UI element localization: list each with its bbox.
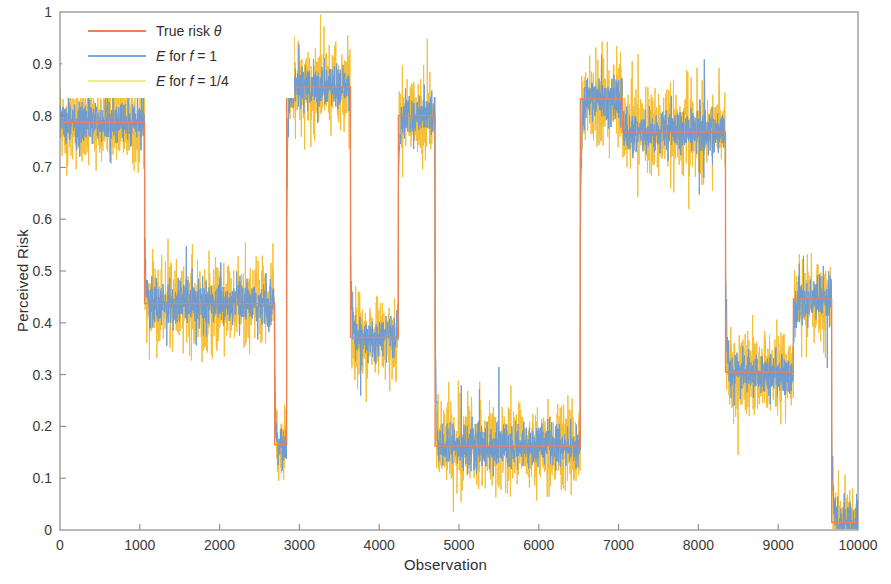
legend-label-estimate-f-1: E for f = 1 [156,48,217,64]
y-tick-label: 0.7 [33,159,53,175]
x-tick-label: 9000 [763,537,794,553]
legend-label-estimate-f-quarter: E for f = 1/4 [156,73,229,89]
x-tick-label: 1000 [124,537,155,553]
risk-tracking-chart: 0100020003000400050006000700080009000100… [0,0,891,584]
y-tick-label: 0.8 [33,108,53,124]
x-tick-label: 7000 [603,537,634,553]
y-tick-label: 0.9 [33,56,53,72]
x-tick-label: 2000 [204,537,235,553]
x-tick-label: 8000 [683,537,714,553]
x-tick-label: 5000 [443,537,474,553]
y-tick-label: 0.6 [33,211,53,227]
x-tick-label: 6000 [523,537,554,553]
y-tick-label: 0.4 [33,315,53,331]
y-tick-label: 0.5 [33,263,53,279]
y-tick-label: 0 [44,522,52,538]
y-tick-label: 0.1 [33,470,53,486]
y-tick-label: 0.3 [33,367,53,383]
y-tick-label: 1 [44,4,52,20]
x-axis-title: Observation [0,556,891,573]
x-tick-label: 0 [56,537,64,553]
legend-label-true-risk: True risk θ [156,23,222,39]
x-tick-label: 3000 [284,537,315,553]
y-axis-title: Perceived Risk [14,181,31,381]
x-tick-label: 10000 [839,537,878,553]
plot-canvas: 0100020003000400050006000700080009000100… [0,0,891,584]
legend: True risk θE for f = 1E for f = 1/4 [62,14,294,98]
y-tick-label: 0.2 [33,418,53,434]
x-tick-label: 4000 [364,537,395,553]
